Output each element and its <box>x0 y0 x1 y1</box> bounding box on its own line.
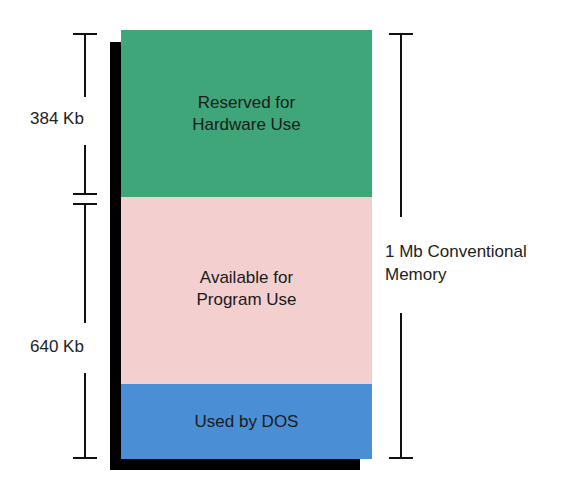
label-1mb-line2: Memory <box>385 264 446 286</box>
block-used-by-dos: Used by DOS <box>121 384 372 459</box>
label-1mb-line1: 1 Mb Conventional <box>385 241 527 263</box>
block-reserved-hardware-label-2: Hardware Use <box>192 114 301 136</box>
bracket-1mb-bottom-cap <box>389 457 413 459</box>
block-program-use-label-2: Program Use <box>196 289 296 311</box>
bracket-640kb-upper-line <box>84 204 86 323</box>
block-reserved-hardware: Reserved for Hardware Use <box>121 30 372 197</box>
block-used-by-dos-label: Used by DOS <box>195 411 299 433</box>
bracket-640kb-bottom-cap <box>73 457 97 459</box>
block-reserved-hardware-label-1: Reserved for <box>192 92 301 114</box>
label-384kb: 384 Kb <box>30 108 84 130</box>
block-program-use-label-1: Available for <box>196 267 296 289</box>
label-640kb: 640 Kb <box>30 336 84 358</box>
bracket-1mb-upper-line <box>400 34 402 217</box>
bracket-640kb-lower-line <box>84 373 86 458</box>
bracket-384kb-upper-line <box>84 34 86 97</box>
block-program-use: Available for Program Use <box>121 197 372 384</box>
bracket-1mb-lower-line <box>400 313 402 458</box>
bracket-384kb-lower-line <box>84 145 86 193</box>
bracket-384kb-bottom-cap <box>73 193 97 195</box>
